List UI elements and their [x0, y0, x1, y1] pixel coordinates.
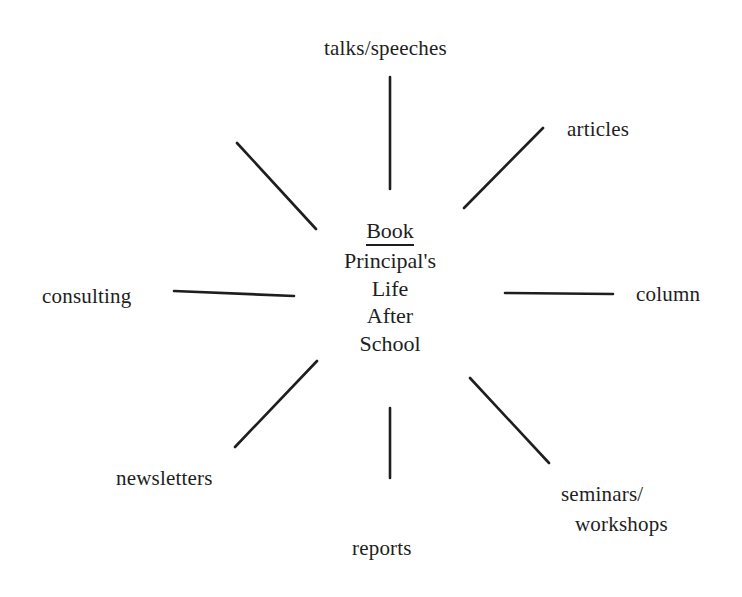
label-newsletters: newsletters — [116, 466, 213, 490]
spider-diagram: Book Principal's Life After School talks… — [0, 0, 742, 597]
center-line-3: After — [330, 302, 450, 330]
spoke-line-upper-right — [464, 128, 543, 208]
center-line-1: Principal's — [330, 247, 450, 275]
center-title: Book — [366, 219, 414, 246]
spoke-line-upper-left-blank — [237, 143, 316, 229]
center-line-4: School — [330, 330, 450, 358]
center-node: Book Principal's Life After School — [330, 217, 450, 357]
spoke-line-left — [174, 291, 294, 296]
spoke-line-lower-right — [470, 378, 549, 463]
label-seminars-workshops: seminars/ workshops — [561, 479, 668, 539]
label-articles: articles — [567, 117, 629, 141]
label-consulting: consulting — [42, 284, 132, 308]
spoke-line-lower-left — [235, 361, 317, 447]
label-talks-speeches: talks/speeches — [324, 36, 447, 60]
spoke-line-right — [505, 293, 613, 294]
label-seminars: seminars/ — [561, 479, 668, 509]
center-line-2: Life — [330, 275, 450, 303]
label-workshops: workshops — [561, 509, 668, 539]
label-reports: reports — [352, 536, 412, 560]
label-column: column — [636, 282, 700, 306]
